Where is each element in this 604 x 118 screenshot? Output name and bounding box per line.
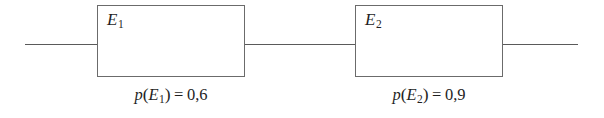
block-e1-label: E1 bbox=[107, 10, 124, 30]
wire-left-lead bbox=[25, 44, 98, 45]
probability-label-e1: p(E1)=0,6 bbox=[97, 86, 245, 106]
probability-e2-value: 0,9 bbox=[445, 85, 466, 104]
probability-label-e2: p(E2)=0,9 bbox=[355, 86, 503, 106]
block-e2-label: E2 bbox=[365, 10, 382, 30]
reliability-block-diagram: E1 E2 p(E1)=0,6 p(E2)=0,9 bbox=[0, 0, 604, 118]
block-e1[interactable]: E1 bbox=[97, 5, 245, 77]
block-e2-label-subscript: 2 bbox=[376, 18, 382, 30]
wire-right-lead bbox=[503, 44, 578, 45]
block-e2-label-base: E bbox=[365, 10, 376, 29]
probability-e2-event-base: E bbox=[407, 85, 417, 104]
probability-e2-function: p bbox=[392, 85, 400, 104]
probability-e2-close-paren: ) bbox=[423, 84, 429, 104]
probability-e1-function: p bbox=[134, 85, 142, 104]
block-e2[interactable]: E2 bbox=[355, 5, 503, 77]
probability-e1-value: 0,6 bbox=[187, 85, 208, 104]
block-e1-label-base: E bbox=[107, 10, 118, 29]
probability-e2-operator: = bbox=[432, 85, 441, 104]
probability-e1-event-base: E bbox=[149, 85, 159, 104]
wire-middle-link bbox=[245, 44, 355, 45]
block-e1-label-subscript: 1 bbox=[118, 18, 124, 30]
probability-e1-close-paren: ) bbox=[165, 84, 171, 104]
probability-e1-operator: = bbox=[174, 85, 183, 104]
